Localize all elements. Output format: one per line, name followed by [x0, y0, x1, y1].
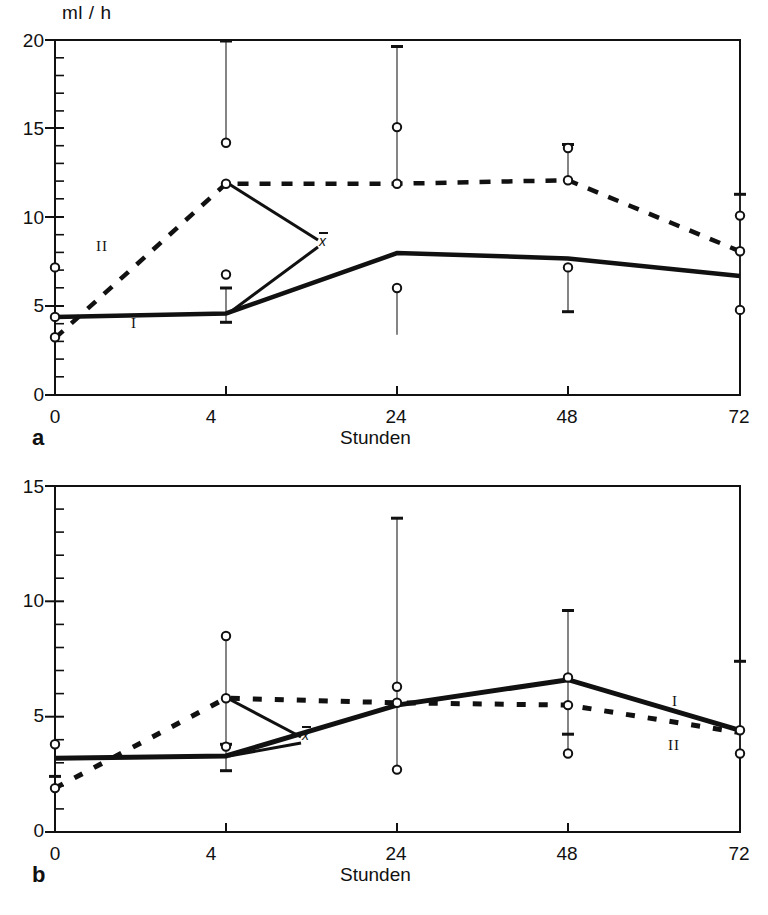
panel-a-errorbars-I — [226, 251, 740, 334]
panel-b-y-minor-ticks — [55, 509, 64, 809]
panel-b-mean-leader-lines — [229, 699, 301, 756]
panel-a-errorbars-II — [226, 40, 740, 251]
panel-a: ml / h 20 15 10 5 0 0 4 24 48 72 Stunden… — [0, 0, 768, 460]
panel-a-x-ticks — [55, 386, 740, 395]
panel-b-plot — [0, 460, 768, 915]
panel-a-mean-leader-lines — [229, 184, 318, 313]
panel-b: 15 10 5 0 0 4 24 48 72 Stunden b I II x — [0, 460, 768, 915]
panel-b-x-ticks — [55, 823, 740, 832]
figure-two-panel-line-charts: ml / h 20 15 10 5 0 0 4 24 48 72 Stunden… — [0, 0, 768, 915]
panel-a-plot — [0, 0, 768, 460]
